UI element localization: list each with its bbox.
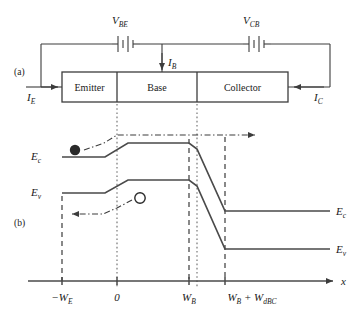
base-region-label: Base: [147, 82, 167, 93]
ib-label: IB: [167, 56, 177, 71]
ie-label: IE: [26, 91, 36, 106]
base-current: IB: [162, 53, 177, 71]
tick-label-wb-plus-wdbc: WB + WdBC: [227, 291, 277, 306]
vcb-label: VCB: [243, 14, 260, 29]
panel-a-tag: (a): [14, 67, 25, 78]
junction-guide-lines: [117, 104, 197, 287]
conduction-band-label-right: Ec: [335, 205, 347, 220]
tick-label-wb: WB: [182, 291, 196, 306]
electron-dot: [70, 145, 80, 155]
x-axis-label: x: [340, 275, 346, 287]
vbe-label: VBE: [112, 14, 128, 29]
hole-circle: [135, 193, 145, 203]
circuit-panel: (a): [14, 14, 330, 106]
tick-label-minus-we: −WE: [51, 291, 73, 306]
figure-canvas: (a): [0, 0, 360, 330]
electron-marker: [70, 145, 80, 155]
emitter-current: IE: [26, 87, 58, 106]
valence-band-label-left: Ev: [30, 186, 42, 201]
ic-label: IC: [313, 91, 324, 106]
x-axis: x −WE 0 WB WB + WdBC: [28, 275, 346, 306]
panel-b-tag: (b): [14, 218, 25, 229]
circuit-wiring: [41, 44, 330, 87]
valence-band-edge: [62, 180, 330, 249]
valence-band-label-right: Ev: [335, 243, 347, 258]
transistor-body: Emitter Base Collector: [62, 72, 288, 102]
tick-label-zero: 0: [114, 291, 120, 303]
collector-region-label: Collector: [224, 82, 262, 93]
band-diagram-panel: (b) Ec Ev Ec Ev: [14, 104, 347, 306]
hole-marker: [135, 193, 145, 203]
collector-base-source: VCB: [243, 14, 271, 52]
hole-transport-path: [72, 200, 132, 214]
conduction-band-label-left: Ec: [30, 150, 42, 165]
base-emitter-source: VBE: [112, 14, 140, 52]
semiconductor-bjt-figure: (a): [0, 0, 360, 330]
conduction-band-edge: [62, 143, 330, 211]
emitter-region-label: Emitter: [75, 82, 106, 93]
collector-current: IC: [294, 87, 324, 106]
